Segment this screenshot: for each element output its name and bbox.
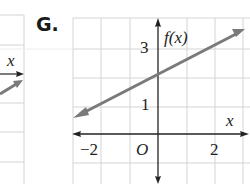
y-tick-1: 1 bbox=[141, 95, 150, 114]
origin-label: O bbox=[136, 140, 148, 159]
x-axis-label: x bbox=[225, 111, 234, 130]
y-axis-up-arrow-icon bbox=[155, 18, 161, 27]
x-axis-right-arrow-icon bbox=[240, 131, 249, 137]
y-tick-3: 3 bbox=[140, 38, 149, 57]
line-left-arrow-icon bbox=[73, 107, 89, 118]
x-tick-neg2: −2 bbox=[80, 140, 98, 159]
y-axis-label: f(x) bbox=[164, 28, 188, 47]
grid bbox=[73, 18, 250, 184]
graph-g: f(x) x 3 1 −2 O 2 bbox=[0, 0, 250, 184]
x-tick-2: 2 bbox=[210, 140, 219, 159]
y-axis-down-arrow-icon bbox=[155, 176, 161, 184]
